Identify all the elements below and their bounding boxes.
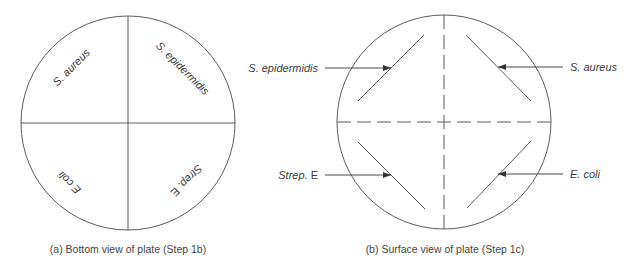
label-e-coli: E. coli xyxy=(570,168,601,180)
label-strep-e: Strep. E xyxy=(278,169,318,181)
streak-bottom-right xyxy=(467,141,531,208)
streak-top-right xyxy=(466,35,531,101)
strep-suffix-b: E xyxy=(308,169,318,181)
caption-a: (a) Bottom view of plate (Step 1b) xyxy=(50,243,206,255)
panel-b-surface-view: S. epidermidis S. aureus Strep. E E. col… xyxy=(248,15,617,255)
quadrant-label-bottom-left: E coli xyxy=(55,169,83,197)
quadrant-label-bottom-right: Strep. E xyxy=(169,163,206,200)
caption-b: (b) Surface view of plate (Step 1c) xyxy=(366,243,525,255)
diagram-canvas: S. aureus S. epidermidis E coli Strep. E… xyxy=(0,0,632,272)
panel-a-bottom-view: S. aureus S. epidermidis E coli Strep. E… xyxy=(21,16,235,255)
label-s-aureus: S. aureus xyxy=(570,61,618,73)
quadrant-label-top-left: S. aureus xyxy=(50,46,92,88)
label-s-epidermidis: S. epidermidis xyxy=(248,62,318,74)
strep-genus-b: Strep. xyxy=(278,169,307,181)
quadrant-label-top-right: S. epidermidis xyxy=(154,39,212,97)
streak-bottom-left xyxy=(358,142,425,209)
